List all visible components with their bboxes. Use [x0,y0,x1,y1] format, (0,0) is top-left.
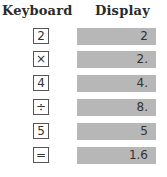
sequence-row: = 1.6 [0,147,167,164]
display-value: 2 [77,28,156,45]
display-value: 8. [77,99,156,116]
sequence-row: 2 2 [0,28,167,45]
sequence-row: ÷ 8. [0,99,167,116]
key-button: ÷ [33,99,49,115]
key-button: 4 [33,75,49,91]
sequence-row: 4 4. [0,75,167,92]
display-value: 1.6 [77,147,156,164]
key-button: = [33,147,49,163]
sequence-row: × 2. [0,51,167,68]
sequence-row: 5 5 [0,123,167,140]
key-button: 2 [33,28,49,44]
display-value: 5 [77,123,156,140]
display-value: 2. [77,51,156,68]
key-button: × [33,51,49,67]
display-value: 4. [77,75,156,92]
key-button: 5 [33,123,49,139]
keyboard-header: Keyboard [2,3,73,18]
display-header: Display [95,3,150,18]
